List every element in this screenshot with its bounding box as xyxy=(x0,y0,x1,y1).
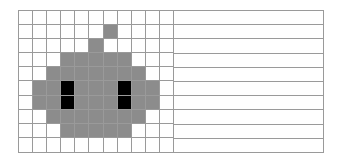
pixel-cell-empty[interactable] xyxy=(146,124,160,138)
pixel-cell-empty[interactable] xyxy=(104,138,118,152)
pixel-cell-empty[interactable] xyxy=(19,138,33,152)
pixel-cell-empty[interactable] xyxy=(146,67,160,81)
pixel-cell-empty[interactable] xyxy=(47,138,61,152)
pixel-cell-gray[interactable] xyxy=(118,110,132,124)
pixel-cell-gray[interactable] xyxy=(75,53,89,67)
pixel-cell-empty[interactable] xyxy=(118,138,132,152)
pixel-cell-black[interactable] xyxy=(118,96,132,110)
pixel-cell-empty[interactable] xyxy=(160,25,174,39)
pixel-cell-gray[interactable] xyxy=(61,110,75,124)
pixel-cell-gray[interactable] xyxy=(61,53,75,67)
pixel-cell-empty[interactable] xyxy=(146,25,160,39)
pixel-cell-gray[interactable] xyxy=(89,96,103,110)
pixel-cell-empty[interactable] xyxy=(75,39,89,53)
pixel-cell-empty[interactable] xyxy=(132,124,146,138)
pixel-cell-gray[interactable] xyxy=(61,67,75,81)
pixel-cell-gray[interactable] xyxy=(75,96,89,110)
pixel-cell-gray[interactable] xyxy=(47,110,61,124)
pixel-cell-empty[interactable] xyxy=(33,25,47,39)
pixel-cell-empty[interactable] xyxy=(75,138,89,152)
pixel-cell-empty[interactable] xyxy=(33,110,47,124)
pixel-cell-gray[interactable] xyxy=(132,96,146,110)
pixel-cell-empty[interactable] xyxy=(75,11,89,25)
pixel-cell-empty[interactable] xyxy=(146,53,160,67)
pixel-cell-gray[interactable] xyxy=(89,110,103,124)
pixel-cell-gray[interactable] xyxy=(47,96,61,110)
pixel-cell-gray[interactable] xyxy=(89,67,103,81)
pixel-cell-gray[interactable] xyxy=(146,81,160,95)
pixel-cell-empty[interactable] xyxy=(160,124,174,138)
pixel-cell-empty[interactable] xyxy=(118,11,132,25)
pixel-cell-gray[interactable] xyxy=(47,81,61,95)
pixel-cell-gray[interactable] xyxy=(104,124,118,138)
pixel-cell-gray[interactable] xyxy=(33,96,47,110)
pixel-cell-gray[interactable] xyxy=(89,124,103,138)
pixel-cell-empty[interactable] xyxy=(160,53,174,67)
pixel-cell-empty[interactable] xyxy=(33,53,47,67)
pixel-cell-empty[interactable] xyxy=(61,11,75,25)
pixel-cell-empty[interactable] xyxy=(75,25,89,39)
pixel-cell-empty[interactable] xyxy=(132,11,146,25)
pixel-cell-empty[interactable] xyxy=(33,67,47,81)
pixel-cell-empty[interactable] xyxy=(47,53,61,67)
pixel-cell-gray[interactable] xyxy=(89,39,103,53)
pixel-cell-gray[interactable] xyxy=(104,96,118,110)
pixel-cell-empty[interactable] xyxy=(19,67,33,81)
pixel-cell-empty[interactable] xyxy=(47,11,61,25)
pixel-cell-empty[interactable] xyxy=(160,110,174,124)
pixel-cell-empty[interactable] xyxy=(33,39,47,53)
pixel-cell-empty[interactable] xyxy=(146,39,160,53)
pixel-cell-empty[interactable] xyxy=(19,39,33,53)
pixel-cell-empty[interactable] xyxy=(160,96,174,110)
pixel-cell-gray[interactable] xyxy=(75,81,89,95)
pixel-cell-empty[interactable] xyxy=(19,110,33,124)
pixel-cell-empty[interactable] xyxy=(89,11,103,25)
pixel-cell-gray[interactable] xyxy=(132,110,146,124)
pixel-cell-empty[interactable] xyxy=(33,138,47,152)
pixel-cell-gray[interactable] xyxy=(104,53,118,67)
pixel-cell-black[interactable] xyxy=(61,81,75,95)
pixel-cell-empty[interactable] xyxy=(89,25,103,39)
pixel-cell-empty[interactable] xyxy=(132,53,146,67)
pixel-cell-empty[interactable] xyxy=(146,110,160,124)
pixel-cell-empty[interactable] xyxy=(118,39,132,53)
pixel-cell-empty[interactable] xyxy=(160,138,174,152)
pixel-cell-empty[interactable] xyxy=(89,138,103,152)
pixel-cell-empty[interactable] xyxy=(104,11,118,25)
pixel-cell-empty[interactable] xyxy=(47,25,61,39)
pixel-cell-gray[interactable] xyxy=(89,81,103,95)
pixel-cell-gray[interactable] xyxy=(132,81,146,95)
pixel-cell-gray[interactable] xyxy=(118,124,132,138)
pixel-cell-empty[interactable] xyxy=(160,67,174,81)
pixel-cell-empty[interactable] xyxy=(47,124,61,138)
pixel-cell-black[interactable] xyxy=(61,96,75,110)
pixel-cell-empty[interactable] xyxy=(33,124,47,138)
pixel-cell-empty[interactable] xyxy=(61,39,75,53)
pixel-cell-gray[interactable] xyxy=(75,110,89,124)
pixel-cell-gray[interactable] xyxy=(132,67,146,81)
pixel-cell-empty[interactable] xyxy=(19,53,33,67)
pixel-cell-gray[interactable] xyxy=(104,67,118,81)
pixel-cell-empty[interactable] xyxy=(132,25,146,39)
pixel-cell-empty[interactable] xyxy=(160,81,174,95)
pixel-cell-gray[interactable] xyxy=(146,96,160,110)
pixel-cell-gray[interactable] xyxy=(61,124,75,138)
pixel-cell-empty[interactable] xyxy=(19,124,33,138)
pixel-cell-gray[interactable] xyxy=(47,67,61,81)
pixel-cell-empty[interactable] xyxy=(146,138,160,152)
pixel-cell-empty[interactable] xyxy=(160,39,174,53)
pixel-cell-empty[interactable] xyxy=(118,25,132,39)
pixel-cell-empty[interactable] xyxy=(61,138,75,152)
pixel-cell-empty[interactable] xyxy=(132,138,146,152)
pixel-cell-gray[interactable] xyxy=(75,67,89,81)
pixel-cell-gray[interactable] xyxy=(104,81,118,95)
pixel-grid[interactable] xyxy=(19,11,174,152)
pixel-cell-gray[interactable] xyxy=(104,25,118,39)
pixel-cell-empty[interactable] xyxy=(160,11,174,25)
pixel-cell-empty[interactable] xyxy=(19,25,33,39)
pixel-cell-gray[interactable] xyxy=(118,53,132,67)
pixel-cell-empty[interactable] xyxy=(132,39,146,53)
pixel-cell-empty[interactable] xyxy=(146,11,160,25)
pixel-cell-gray[interactable] xyxy=(89,53,103,67)
pixel-cell-empty[interactable] xyxy=(47,39,61,53)
